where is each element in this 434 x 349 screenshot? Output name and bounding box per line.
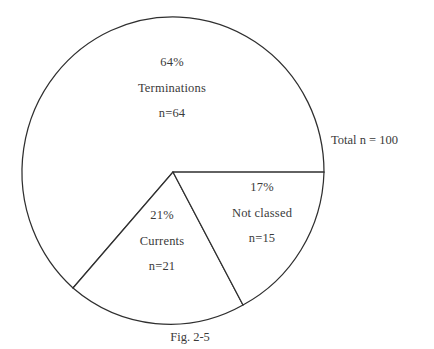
slice-name-not-classed: Not classed <box>232 207 292 220</box>
slice-name-currents: Currents <box>140 235 185 248</box>
total-callout-label: Total n = 100 <box>331 133 398 148</box>
slice-percent-terminations: 64% <box>138 56 206 69</box>
slice-percent-not-classed: 17% <box>232 181 292 194</box>
figure-container: 64% Terminations n=64 21% Currents n=21 … <box>0 0 434 349</box>
slice-label-terminations: 64% Terminations n=64 <box>138 56 206 120</box>
slice-count-currents: n=21 <box>140 260 185 273</box>
slice-count-terminations: n=64 <box>138 107 206 120</box>
slice-label-currents: 21% Currents n=21 <box>140 209 185 273</box>
pie-chart-graphic <box>0 0 434 349</box>
slice-label-not-classed: 17% Not classed n=15 <box>232 181 292 245</box>
slice-name-terminations: Terminations <box>138 82 206 95</box>
figure-caption: Fig. 2-5 <box>170 330 210 345</box>
slice-percent-currents: 21% <box>140 209 185 222</box>
slice-count-not-classed: n=15 <box>232 232 292 245</box>
